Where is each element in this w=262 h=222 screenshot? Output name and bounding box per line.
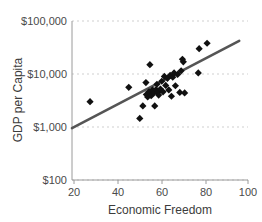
x-axis-ticks [74,180,248,184]
y-tick-label-10000: $10,000 [27,68,67,80]
plot-area-background [72,21,248,180]
x-tick-label-40: 40 [112,186,124,198]
y-tick-label-100: $100 [43,174,67,186]
x-axis-title: Economic Freedom [108,203,212,217]
y-axis-tick-labels: $100,000 $10,000 $1,000 $100 [21,15,67,186]
y-tick-label-100000: $100,000 [21,15,67,27]
x-tick-label-80: 80 [200,186,212,198]
chart-canvas: $100,000 $10,000 $1,000 $100 20 40 60 80… [0,0,262,222]
x-tick-label-60: 60 [156,186,168,198]
x-axis-tick-labels: 20 40 60 80 100 [68,186,257,198]
x-tick-label-20: 20 [68,186,80,198]
scatter-chart: $100,000 $10,000 $1,000 $100 20 40 60 80… [0,0,262,222]
x-tick-label-100: 100 [239,186,257,198]
y-tick-label-1000: $1,000 [33,121,67,133]
y-axis-title: GDP per Capita [11,57,25,142]
